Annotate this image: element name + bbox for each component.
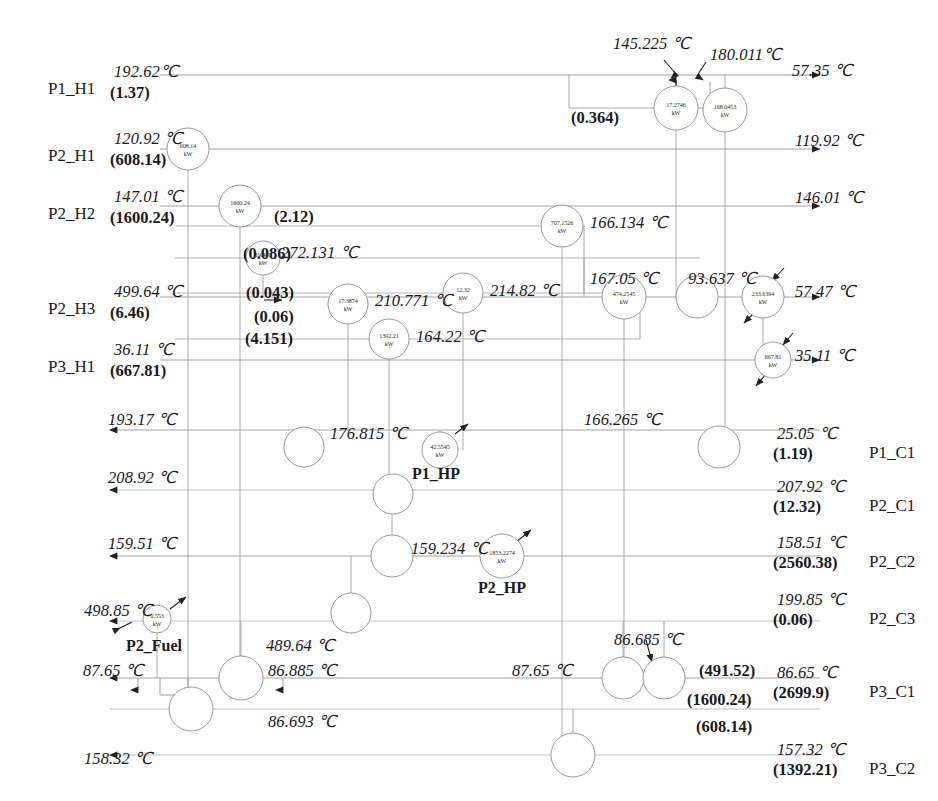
inlet-temp-P1_H1: 192.62℃	[114, 64, 179, 81]
duty-label-hx-19: 19.463kW	[246, 251, 280, 267]
temperature-t-159234: 159.234 ℃	[411, 541, 489, 558]
temperature-t-20892: 208.92 ℃	[108, 470, 177, 487]
temperature-t-5747: 57.47 ℃	[795, 284, 856, 301]
temperature-t-86693: 86.693 ℃	[268, 714, 337, 731]
stream-label-P1_H1: P1_H1	[48, 80, 95, 97]
flowrate-f-160024: (1600.24)	[687, 692, 752, 709]
duty-label-hx-42: 42.5545kW	[422, 443, 458, 459]
stream-label-P1_C1: P1_C1	[869, 444, 915, 461]
duty-label-hx-1600: 1600.24kW	[219, 199, 261, 215]
unit-label-p1_hp: P1_HP	[412, 466, 460, 482]
flowrate-P3_C2: (1392.21)	[773, 762, 838, 779]
mixer-node-n1[interactable]	[284, 427, 324, 467]
temperature-t-48964: 489.64 ℃	[266, 638, 335, 655]
temperature-t-3511: 35.11 ℃	[795, 348, 855, 365]
duty-label-hx-168: 168.0453kW	[703, 103, 747, 119]
temperature-t-16705: 167.05 ℃	[590, 271, 659, 288]
flowrate-P2_H1: (608.14)	[110, 152, 166, 169]
inlet-temp-P2_H2: 147.01 ℃	[114, 189, 183, 206]
flowrate-P2_C3: (0.06)	[773, 612, 813, 629]
inlet-temp-P3_C2: 157.32 ℃	[777, 742, 846, 759]
inlet-temp-P2_H3: 499.64 ℃	[114, 284, 183, 301]
duty-label-hx-12p3: 12.32kW	[443, 286, 483, 302]
flowrate-P2_H3: (6.46)	[110, 305, 150, 322]
flowrate-f-0043: (0.043)	[246, 285, 294, 302]
flowrate-P2_C2: (2560.38)	[773, 555, 838, 572]
temperature-t-11992: 119.92 ℃	[795, 133, 863, 150]
temperature-t-176815: 176.815 ℃	[330, 426, 408, 443]
stream-label-P2_H2: P2_H2	[48, 205, 95, 222]
temperature-t-86885: 86.885 ℃	[268, 663, 337, 680]
stream-label-P3_C1: P3_C1	[869, 683, 915, 700]
temperature-t-166134: 166.134 ℃	[590, 215, 668, 232]
stream-label-P2_H3: P2_H3	[48, 300, 95, 317]
flowrate-f-006: (0.06)	[254, 309, 294, 326]
hen-grid-diagram: P1_H1192.62℃(1.37)P2_H1120.92 ℃(608.14)P…	[0, 0, 938, 801]
duty-label-hx-1392: 1392.21kW	[369, 332, 409, 348]
temperature-t-14601: 146.01 ℃	[795, 190, 864, 207]
mixer-node-n3[interactable]	[373, 474, 413, 514]
temperature-t-15832: 158.32 ℃	[84, 751, 153, 768]
mixer-node-n7[interactable]	[219, 656, 263, 700]
flowrate-f-0364: (0.364)	[571, 110, 619, 127]
temperature-t-16422: 164.22 ℃	[416, 329, 485, 346]
mixer-node-n6[interactable]	[331, 593, 371, 633]
inlet-temp-P2_C1: 207.92 ℃	[777, 479, 846, 496]
duty-label-hx-1853: 1853.2274kW	[480, 549, 524, 565]
stream-label-P2_H1: P2_H1	[48, 147, 95, 164]
stream-label-P3_H1: P3_H1	[48, 358, 95, 375]
stream-label-P3_C2: P3_C2	[869, 760, 915, 777]
flowrate-f-212: (2.12)	[274, 209, 314, 226]
temperature-t-5735: 57.35 ℃	[792, 63, 853, 80]
flowrate-P3_H1: (667.81)	[110, 363, 166, 380]
flowrate-P2_C1: (12.32)	[773, 499, 821, 516]
duty-label-hx-707: 707.1526kW	[541, 219, 583, 235]
mixer-node-n11[interactable]	[551, 733, 595, 777]
temperature-t-272131: 272.131 ℃	[281, 245, 359, 262]
stream-label-P2_C1: P2_C1	[869, 497, 915, 514]
mixer-node-n5[interactable]	[371, 535, 413, 577]
mixer-node-n10[interactable]	[643, 657, 685, 699]
inlet-temp-P1_C1: 25.05 ℃	[777, 426, 838, 443]
temperature-t-86685: 86.685 ℃	[614, 632, 683, 649]
flowrate-P3_C1: (2699.9)	[773, 685, 829, 702]
flowrate-f-60814: (608.14)	[696, 719, 752, 736]
flowrate-f-49152: (491.52)	[699, 663, 755, 680]
inlet-temp-P2_C3: 199.85 ℃	[777, 592, 846, 609]
stream-label-P2_C3: P2_C3	[869, 610, 915, 627]
flowrate-P1_H1: (1.37)	[110, 85, 150, 102]
stream-label-P2_C2: P2_C2	[869, 553, 915, 570]
duty-label-hx-233: 233.6394kW	[742, 290, 784, 306]
inlet-temp-P3_H1: 36.11 ℃	[114, 342, 174, 359]
temperature-t-166265: 166.265 ℃	[584, 412, 662, 429]
temperature-t-8765L: 87.65 ℃	[83, 663, 144, 680]
temperature-t-180: 180.011℃	[710, 47, 782, 64]
inlet-temp-P3_C1: 86.65 ℃	[777, 665, 838, 682]
duty-label-hx-667: 667.81kW	[755, 353, 791, 369]
unit-label-p2_fuel: P2_Fuel	[126, 638, 182, 654]
flowrate-P2_H2: (1600.24)	[110, 210, 175, 227]
duty-label-hx-17p3: 17.3874kW	[328, 297, 368, 313]
temperature-t-8765M: 87.65 ℃	[512, 663, 573, 680]
unit-label-p2_hp: P2_HP	[478, 580, 526, 596]
temperature-t-210771: 210.771 ℃	[375, 293, 453, 310]
flowrate-f-4151: (4.151)	[245, 331, 293, 348]
mixer-node-n8[interactable]	[169, 687, 213, 731]
duty-label-hx-0p553: 0.553kW	[143, 612, 171, 628]
mixer-node-n2[interactable]	[698, 426, 740, 468]
inlet-temp-P2_C2: 158.51 ℃	[777, 535, 846, 552]
duty-label-hx-474: 474.2545kW	[602, 290, 646, 306]
duty-label-hx-608: 608.14kW	[167, 142, 209, 158]
mixer-node-n9[interactable]	[602, 657, 644, 699]
temperature-t-145: 145.225 ℃	[613, 36, 691, 53]
temperature-t-93637: 93.637 ℃	[688, 271, 757, 288]
temperature-t-21482: 214.82 ℃	[490, 283, 559, 300]
duty-label-hx-17p2: 17.2746kW	[654, 101, 698, 117]
flowrate-P1_C1: (1.19)	[773, 446, 813, 463]
temperature-t-15951: 159.51 ℃	[108, 536, 177, 553]
temperature-t-19317: 193.17 ℃	[108, 412, 177, 429]
